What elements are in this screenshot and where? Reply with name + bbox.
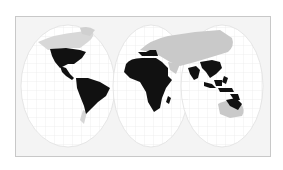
- world-map: [0, 0, 283, 170]
